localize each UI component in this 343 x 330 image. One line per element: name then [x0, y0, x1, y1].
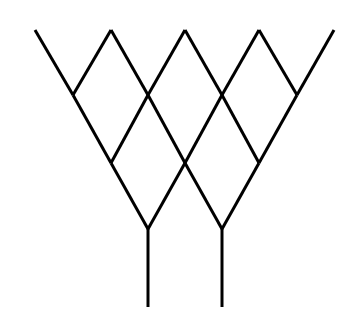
lattice-edge — [111, 163, 148, 229]
lattice-edge — [222, 30, 259, 95]
lattice-edge — [148, 163, 185, 229]
lattice-tree-diagram — [0, 0, 343, 330]
lattice-edge — [297, 30, 334, 95]
lattice-edge — [185, 95, 222, 163]
lattice-edge — [35, 30, 73, 95]
diagram-edges — [35, 30, 334, 307]
lattice-edge — [259, 95, 297, 163]
lattice-edge — [222, 95, 259, 163]
lattice-edge — [259, 30, 297, 95]
lattice-edge — [111, 95, 148, 163]
lattice-edge — [222, 163, 259, 229]
lattice-edge — [73, 30, 111, 95]
lattice-edge — [73, 95, 111, 163]
lattice-edge — [148, 95, 185, 163]
lattice-edge — [111, 30, 148, 95]
lattice-edge — [185, 30, 222, 95]
diagram-canvas — [0, 0, 343, 330]
lattice-edge — [185, 163, 222, 229]
lattice-edge — [148, 30, 185, 95]
